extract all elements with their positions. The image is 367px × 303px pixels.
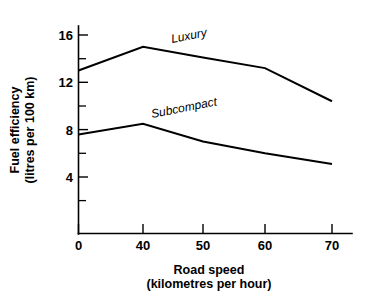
x-axis-title-line1: Road speed	[174, 263, 245, 277]
x-axis-title-line2: (kilometres per hour)	[146, 277, 271, 291]
y-axis-title-line2: (litres per 100 km)	[23, 77, 37, 184]
x-tick-label-50: 50	[196, 238, 210, 253]
y-tick-label-12: 12	[59, 75, 73, 90]
x-tick-label-40: 40	[136, 238, 150, 253]
y-axis-title: Fuel efficiency (litres per 100 km)	[8, 77, 37, 184]
x-tick-label-0: 0	[75, 238, 82, 253]
y-tick-label-8: 8	[66, 123, 73, 138]
x-tick-label-70: 70	[325, 238, 339, 253]
y-tick-label-4: 4	[66, 170, 74, 185]
y-axis-title-line1: Fuel efficiency	[8, 87, 22, 174]
x-tick-label-60: 60	[258, 238, 272, 253]
fuel-efficiency-line-chart: 16 12 8 4 0 40 50 60 70 Luxury Subcompac…	[0, 0, 367, 303]
chart-background	[0, 0, 367, 303]
y-tick-label-16: 16	[59, 28, 73, 43]
chart-container: 16 12 8 4 0 40 50 60 70 Luxury Subcompac…	[0, 0, 367, 303]
